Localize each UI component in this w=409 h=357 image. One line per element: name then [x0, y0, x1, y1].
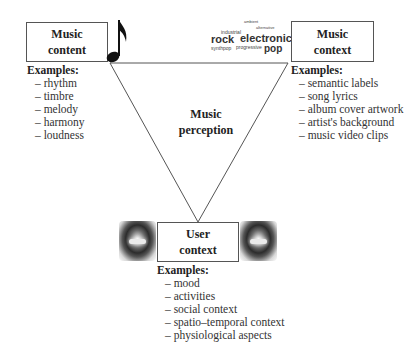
headphones-icon-left: [119, 221, 156, 261]
example-item: song lyrics: [299, 90, 403, 103]
music-content-box: Music content: [26, 22, 108, 62]
music-content-title-2: content: [48, 42, 86, 58]
example-item: mood: [165, 277, 284, 290]
word-cloud-word: progressive: [236, 44, 262, 50]
word-cloud-word: pop: [264, 43, 282, 54]
word-cloud-word: ambient: [244, 19, 258, 24]
example-item: semantic labels: [299, 77, 403, 90]
music-context-title-2: context: [314, 42, 351, 58]
word-cloud-word: synthpop: [211, 45, 231, 51]
center-label-line1: Music: [166, 106, 246, 122]
music-context-examples: Examples: semantic labels song lyrics al…: [291, 64, 403, 142]
example-item: timbre: [35, 90, 85, 103]
example-item: harmony: [35, 116, 85, 129]
example-item: social context: [165, 303, 284, 316]
example-item: physiological aspects: [165, 329, 284, 342]
example-item: music video clips: [299, 129, 403, 142]
examples-header: Examples:: [157, 264, 284, 277]
examples-header: Examples:: [27, 64, 85, 77]
example-item: loudness: [35, 129, 85, 142]
example-item: album cover artwork: [299, 103, 403, 116]
music-content-examples: Examples: rhythm timbre melody harmony l…: [27, 64, 85, 142]
music-context-box: Music context: [291, 21, 374, 62]
example-item: artist's background: [299, 116, 403, 129]
music-context-title-1: Music: [314, 26, 351, 42]
example-item: rhythm: [35, 77, 85, 90]
example-item: spatio–temporal context: [165, 316, 284, 329]
music-note-icon: [106, 18, 128, 64]
user-context-title-1: User: [179, 226, 216, 242]
user-context-title-2: context: [179, 242, 216, 258]
example-item: melody: [35, 103, 85, 116]
word-cloud-icon: ambient alternative industrial rock elec…: [206, 18, 290, 60]
example-item: activities: [165, 290, 284, 303]
user-context-examples: Examples: mood activities social context…: [157, 264, 284, 342]
word-cloud-word: rock: [211, 33, 234, 45]
examples-header: Examples:: [291, 64, 403, 77]
headphones-icon-right: [240, 221, 277, 261]
user-context-box: User context: [157, 222, 239, 262]
center-label-line2: perception: [166, 122, 246, 138]
word-cloud-word: alternative: [256, 25, 274, 30]
music-content-title-1: Music: [48, 26, 86, 42]
music-perception-label: Music perception: [166, 106, 246, 138]
